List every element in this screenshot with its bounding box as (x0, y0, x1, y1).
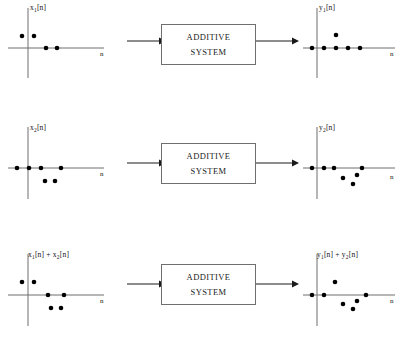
input-plot-2-axes (0, 115, 125, 230)
output-signal-label-3: y1[n] + y2[n] (317, 250, 358, 259)
label-tail2: [n] (349, 250, 358, 259)
input-axis-label-2: n (100, 170, 104, 178)
block-label-line2: SYSTEM (191, 45, 227, 60)
label-tail: [n] (326, 123, 335, 132)
input-signal-label-3: x1[n] + x2[n] (28, 250, 69, 259)
output-plot-2: y2[n] n (295, 115, 414, 230)
label-sub: 1 (321, 254, 324, 260)
input-arrow-1 (125, 0, 165, 115)
label-sub: 2 (34, 127, 37, 133)
output-plot-3: y1[n] + y2[n] n (295, 230, 414, 345)
input-plot-1-axes (0, 0, 125, 115)
system-row-2: x2[n] n ADDITIVE SYSTEM y2[n] n (0, 115, 414, 230)
label-tail2: [n] (60, 250, 69, 259)
output-plot-3-axes (295, 230, 414, 345)
input-plot-2: x2[n] n (0, 115, 125, 230)
label-tail: [n] (326, 3, 335, 12)
block-label-line1: ADDITIVE (187, 270, 231, 285)
block-label-line1: ADDITIVE (187, 30, 231, 45)
label-sub2: 2 (346, 254, 349, 260)
input-axis-label-3: n (100, 297, 104, 305)
label-tail: [n] (37, 123, 46, 132)
input-signal-label-2: x2[n] (30, 123, 46, 132)
system-row-3: x1[n] + x2[n] n ADDITIVE SYSTEM y1[n] + … (0, 230, 414, 345)
output-plot-1: y1[n] n (295, 0, 414, 115)
output-plot-2-axes (295, 115, 414, 230)
additive-system-block-1[interactable]: ADDITIVE SYSTEM (161, 24, 256, 65)
input-arrow-3 (125, 230, 165, 345)
label-sub2: 2 (57, 254, 60, 260)
input-plot-3: x1[n] + x2[n] n (0, 230, 125, 345)
output-plot-1-axes (295, 0, 414, 115)
label-sub: 2 (323, 127, 326, 133)
label-tail: [n] + y (324, 250, 346, 259)
label-tail: [n] (37, 3, 46, 12)
input-plot-1: x1[n] n (0, 0, 125, 115)
block-label-line1: ADDITIVE (187, 149, 231, 164)
output-signal-label-1: y1[n] (319, 3, 335, 12)
output-axis-label-1: n (390, 50, 394, 58)
label-sub: 1 (34, 7, 37, 13)
additive-system-block-3[interactable]: ADDITIVE SYSTEM (161, 264, 256, 305)
block-label-line2: SYSTEM (191, 285, 227, 300)
label-sub: 1 (32, 254, 35, 260)
block-label-line2: SYSTEM (191, 164, 227, 179)
output-signal-label-2: y2[n] (319, 123, 335, 132)
input-plot-3-axes (0, 230, 125, 345)
output-axis-label-3: n (390, 297, 394, 305)
output-axis-label-2: n (390, 173, 394, 181)
system-row-1: x1[n] n ADDITIVE SYSTEM y1[n] n (0, 0, 414, 115)
input-arrow-2 (125, 115, 165, 230)
label-sub: 1 (323, 7, 326, 13)
input-signal-label-1: x1[n] (30, 3, 46, 12)
label-tail: [n] + x (35, 250, 57, 259)
input-axis-label-1: n (100, 50, 104, 58)
additive-system-block-2[interactable]: ADDITIVE SYSTEM (161, 143, 256, 184)
